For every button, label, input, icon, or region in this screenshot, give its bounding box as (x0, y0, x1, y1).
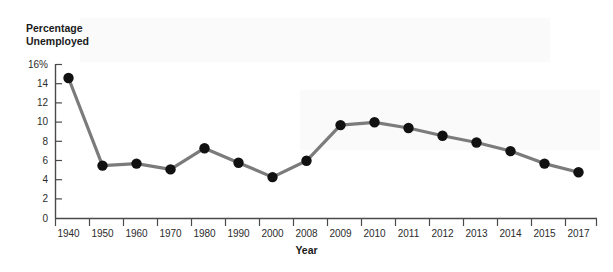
data-point (437, 131, 447, 141)
data-point (335, 120, 345, 130)
data-point (233, 158, 243, 168)
y-axis-ticks (56, 65, 63, 199)
data-point (165, 164, 175, 174)
y-tick-label: 0 (14, 214, 48, 224)
data-point (573, 167, 583, 177)
y-tick-label: 12 (14, 98, 48, 108)
x-tick-label: 2017 (557, 229, 601, 239)
y-tick-label: 16% (14, 60, 48, 70)
y-tick-label: 8 (14, 137, 48, 147)
data-point (369, 117, 379, 127)
data-point (471, 137, 481, 147)
y-tick-label: 10 (14, 117, 48, 127)
y-tick-label: 14 (14, 79, 48, 89)
data-point (267, 172, 277, 182)
data-point (505, 146, 515, 156)
data-point (403, 123, 413, 133)
data-series-line (69, 78, 579, 177)
x-axis-ticks (56, 219, 597, 227)
data-point (97, 160, 107, 170)
data-point (199, 143, 209, 153)
y-tick-label: 4 (14, 175, 48, 185)
data-point (539, 158, 549, 168)
data-point (131, 158, 141, 168)
data-point (301, 156, 311, 166)
data-point (63, 73, 73, 83)
x-axis-title: Year (0, 244, 613, 256)
y-tick-label: 6 (14, 156, 48, 166)
y-tick-label: 2 (14, 194, 48, 204)
unemployment-line-chart: Percentage Unemployed (0, 0, 613, 272)
